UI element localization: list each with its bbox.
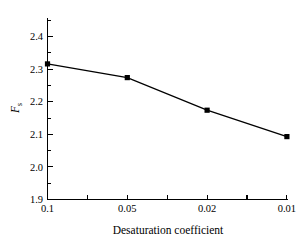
data-point-marker xyxy=(125,75,130,80)
x-tick-label: 0.1 xyxy=(41,203,54,214)
x-tick-label: 0.02 xyxy=(198,203,216,214)
x-tick-label: 0.05 xyxy=(118,203,136,214)
y-axis-title-subscript: s xyxy=(15,103,24,106)
x-axis-title: Desaturation coefficient xyxy=(113,224,224,236)
y-tick-label: 2.1 xyxy=(30,129,43,140)
y-tick-label: 2.0 xyxy=(30,162,43,173)
data-point-marker xyxy=(205,108,210,113)
data-point-marker xyxy=(284,134,289,139)
x-tick-label: 0.01 xyxy=(278,203,296,214)
chart-figure: 1.9 2.0 2.1 2.2 2.3 2.4 0.1 0.05 0.02 0.… xyxy=(0,0,302,245)
y-tick-label: 2.2 xyxy=(30,96,43,107)
line-chart-svg: 1.9 2.0 2.1 2.2 2.3 2.4 0.1 0.05 0.02 0.… xyxy=(0,0,302,245)
data-point-marker xyxy=(45,61,50,66)
y-tick-label: 2.3 xyxy=(30,64,43,75)
y-tick-label: 2.4 xyxy=(30,31,44,42)
